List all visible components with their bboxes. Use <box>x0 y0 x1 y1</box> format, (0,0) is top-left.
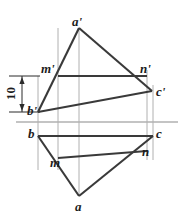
front-view-outline <box>38 28 152 112</box>
label-a: a <box>75 200 82 213</box>
label-b-prime: b' <box>27 104 37 117</box>
arrowhead-up <box>19 77 24 84</box>
label-a-prime: a' <box>72 15 82 28</box>
label-n-prime: n' <box>140 62 151 75</box>
dimension-value-10: 10 <box>4 87 17 100</box>
edge-aprime-cprime <box>79 28 152 91</box>
label-m: m <box>50 156 60 169</box>
arrowhead-down <box>19 104 24 111</box>
edge-bprime-cprime <box>38 91 152 112</box>
projection-line-group <box>38 28 153 196</box>
label-b: b <box>28 127 35 140</box>
label-m-prime: m' <box>41 62 55 75</box>
projection-figure: a' m' n' c' b' b c n m a 10 <box>0 0 187 219</box>
label-n: n <box>142 145 149 158</box>
line-m-n <box>58 151 147 158</box>
label-c: c <box>156 127 162 140</box>
label-c-prime: c' <box>156 85 165 98</box>
